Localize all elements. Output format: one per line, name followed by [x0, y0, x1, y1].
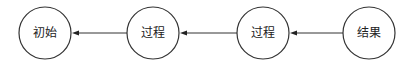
node-4: 结果 [343, 7, 395, 59]
node-2: 过程 [127, 7, 179, 59]
node-label: 结果 [357, 26, 381, 40]
edges [72, 31, 343, 36]
arrowhead-icon [180, 31, 187, 36]
arrowhead-icon [290, 31, 297, 36]
node-label: 过程 [141, 25, 165, 40]
node-1: 初始 [19, 7, 71, 59]
node-label: 初始 [33, 26, 57, 40]
flow-diagram: 初始过程过程结果 [0, 0, 414, 66]
edge-arrow [290, 31, 343, 36]
node-label: 过程 [251, 25, 275, 40]
node-3: 过程 [237, 7, 289, 59]
arrowhead-icon [72, 31, 79, 36]
edge-arrow [72, 31, 127, 36]
edge-arrow [180, 31, 237, 36]
